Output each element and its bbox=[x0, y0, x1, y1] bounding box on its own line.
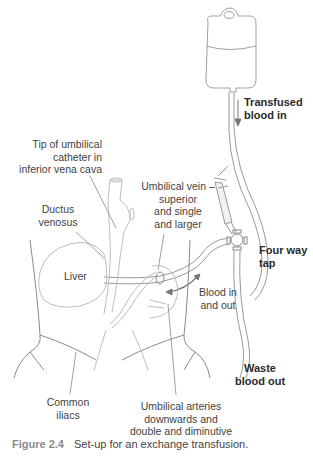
label-line: blood out bbox=[230, 375, 290, 388]
blood-bag-icon bbox=[206, 8, 256, 92]
label-line: and out bbox=[194, 299, 242, 312]
label-blood-in-out: Blood in and out bbox=[194, 286, 242, 311]
label-line: blood in bbox=[244, 109, 303, 122]
ivc-vessels bbox=[104, 178, 134, 314]
label-line: Transfused bbox=[244, 96, 303, 109]
four-way-tap-icon bbox=[227, 230, 247, 250]
label-line: and single bbox=[138, 205, 218, 218]
label-line: Waste bbox=[230, 362, 290, 375]
catheter-tubing bbox=[104, 238, 228, 284]
label-line: and larger bbox=[138, 218, 218, 231]
outflow-tubing bbox=[234, 250, 250, 378]
figure-label: Figure 2.4 bbox=[12, 438, 64, 450]
label-waste-blood-out: Waste blood out bbox=[230, 362, 290, 388]
label-line: Umbilical arteries bbox=[126, 400, 236, 413]
label-line: double and diminutive bbox=[126, 425, 236, 438]
label-line: Tip of umbilical bbox=[14, 138, 102, 151]
label-line: Common bbox=[40, 396, 96, 409]
label-transfused-blood-in: Transfused blood in bbox=[244, 96, 303, 122]
transfused-arrow-icon bbox=[235, 100, 241, 126]
label-line: tap bbox=[259, 257, 307, 270]
label-common-iliacs: Common iliacs bbox=[40, 396, 96, 421]
label-umbilical-arteries: Umbilical arteries downwards and double … bbox=[126, 400, 236, 438]
figure-caption: Figure 2.4Set-up for an exchange transfu… bbox=[12, 438, 248, 450]
label-line: Umbilical vein – bbox=[138, 180, 218, 193]
label-line: downwards and bbox=[126, 413, 236, 426]
label-umbilical-vein: Umbilical vein – superior and single and… bbox=[138, 180, 218, 230]
label-line: venosus bbox=[32, 216, 84, 229]
label-four-way-tap: Four way tap bbox=[259, 244, 307, 270]
label-liver: Liver bbox=[64, 270, 87, 283]
torso-outline bbox=[14, 240, 210, 378]
label-tip-of-catheter: Tip of umbilical catheter in inferior ve… bbox=[14, 138, 102, 176]
label-line: Four way bbox=[259, 244, 307, 257]
label-line: Ductus bbox=[32, 203, 84, 216]
label-line: catheter in bbox=[14, 151, 102, 164]
figure-caption-text: Set-up for an exchange transfusion. bbox=[74, 438, 248, 450]
label-ductus-venosus: Ductus venosus bbox=[32, 203, 84, 228]
label-line: superior bbox=[138, 193, 218, 206]
label-line: Blood in bbox=[194, 286, 242, 299]
label-line: iliacs bbox=[40, 409, 96, 422]
label-line: inferior vena cava bbox=[14, 163, 102, 176]
